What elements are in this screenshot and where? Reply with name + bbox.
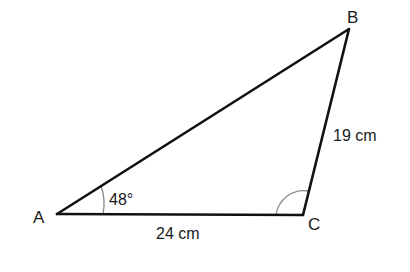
side-label-ac: 24 cm [156,225,200,242]
side-ac [57,214,303,215]
angle-arc-a [101,186,104,214]
side-ab [57,29,349,214]
side-label-bc: 19 cm [333,127,377,144]
side-bc [303,29,349,215]
vertex-label-b: B [347,8,358,27]
triangle-diagram: A B C 48° 24 cm 19 cm [0,0,410,272]
vertex-label-c: C [308,215,320,234]
vertex-label-a: A [33,208,45,227]
angle-label-a: 48° [109,191,133,208]
